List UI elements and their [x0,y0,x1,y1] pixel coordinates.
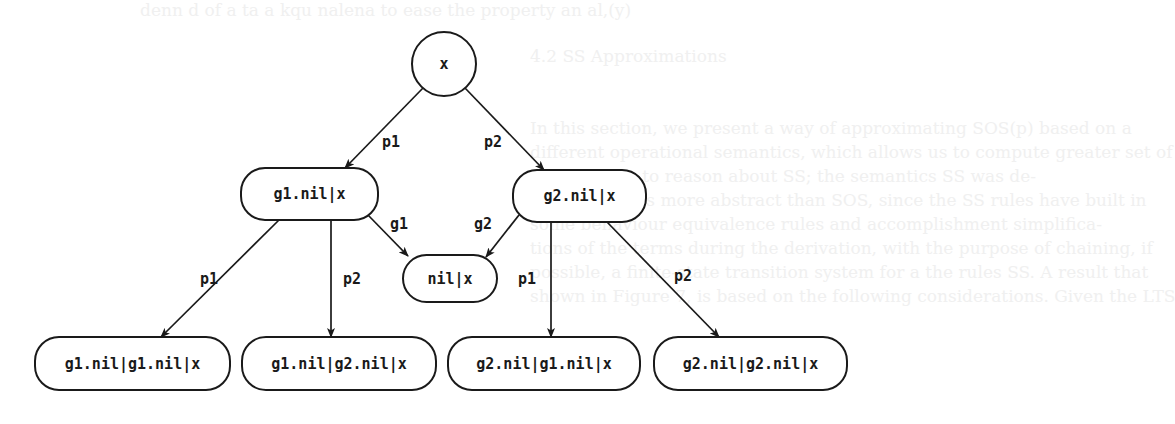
state-node-g2g1: g2.nil|g1.nil|x [448,337,640,390]
edge-label-g1: g1 [390,215,408,233]
state-node-label: g2.nil|x [543,187,615,206]
nodes: xg1.nil|xg2.nil|xnil|xg1.nil|g1.nil|xg1.… [35,32,847,390]
state-node-label: g1.nil|g2.nil|x [271,355,406,374]
edge-label-p1: p1 [200,270,218,288]
state-node-label: nil|x [427,270,472,289]
edge-g1x-to-g1g1-arrow [161,220,279,337]
edge-x-to-g2x-arrow [465,88,544,170]
edge-label-p2: p2 [674,267,692,285]
edge-label-p1: p1 [518,270,536,288]
edge-label-g2: g2 [474,215,492,233]
edge-label-p1: p1 [382,133,400,151]
root-node-label: x [439,55,448,73]
edge-label-p2: p2 [343,270,361,288]
edge-x-to-g1x-arrow [345,88,423,168]
state-node-label: g2.nil|g2.nil|x [683,355,818,374]
state-node-nilx: nil|x [403,255,497,302]
state-node-label: g1.nil|g1.nil|x [65,355,200,374]
state-node-g1g2: g1.nil|g2.nil|x [242,337,436,390]
state-node-label: g1.nil|x [273,185,345,204]
state-node-g2g2: g2.nil|g2.nil|x [654,337,847,390]
state-node-label: g2.nil|g1.nil|x [476,355,611,374]
root-node-circle: x [412,32,476,96]
edge-g2x-to-g2g2-arrow [607,222,719,337]
state-node-g2x: g2.nil|x [513,170,646,222]
edge-label-p2: p2 [484,133,502,151]
state-node-g1x: g1.nil|x [241,168,378,220]
state-node-g1g1: g1.nil|g1.nil|x [35,337,230,390]
